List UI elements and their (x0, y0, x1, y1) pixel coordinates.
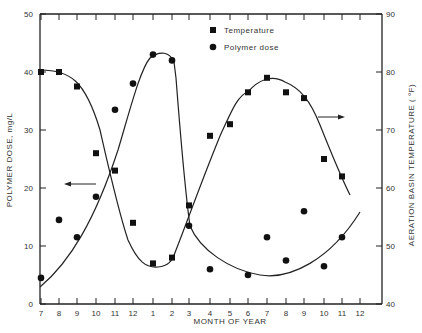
temperature-point (74, 84, 80, 90)
x-tick-label: 1 (151, 309, 156, 318)
temperature-point (93, 150, 99, 156)
y2-tick-label: 70 (386, 126, 395, 135)
y2-tick-label: 60 (386, 184, 395, 193)
right-axis-arrow (318, 115, 345, 120)
temperature-point (339, 173, 345, 179)
polymer-dose-point (207, 266, 214, 273)
dual-axis-scatter-chart: 789101112123456789101112 01020304050 405… (0, 0, 422, 333)
polymer-dose-point (93, 193, 100, 200)
x-tick-label: 11 (338, 309, 347, 318)
temperature-point (321, 156, 327, 162)
temperature-point (186, 202, 192, 208)
polymer-dose-point (38, 275, 45, 282)
polymer-dose-point (186, 222, 193, 229)
x-axis-label: MONTH OF YEAR (193, 317, 266, 326)
polymer-dose-point (150, 51, 157, 58)
x-tick-label: 9 (302, 309, 307, 318)
left-axis-label: POLYMER DOSE, mg/L (5, 113, 14, 208)
x-tick-label: 11 (111, 309, 120, 318)
y-tick-label: 10 (24, 242, 33, 251)
y-tick-label: 40 (24, 68, 33, 77)
x-axis-ticks: 789101112123456789101112 (39, 14, 365, 318)
temperature-point (130, 220, 136, 226)
temperature-point (112, 168, 118, 174)
x-tick-label: 7 (39, 309, 44, 318)
polymer-dose-point (321, 263, 328, 270)
x-tick-label: 2 (170, 309, 175, 318)
polymer-dose-point (264, 234, 271, 241)
x-tick-label: 10 (92, 309, 101, 318)
temperature-point (207, 133, 213, 139)
temperature-point (245, 89, 251, 95)
y2-tick-label: 80 (386, 68, 395, 77)
left-axis-arrow (64, 182, 96, 187)
y-tick-label: 50 (24, 10, 33, 19)
y2-tick-label: 90 (386, 10, 395, 19)
y-tick-label: 0 (29, 300, 34, 309)
polymer-dose-point (339, 234, 346, 241)
temperature-point (301, 95, 307, 101)
x-tick-label: 9 (75, 309, 80, 318)
x-tick-label: 12 (129, 309, 138, 318)
polymer-dose-point (112, 106, 119, 113)
temperature-points (38, 69, 345, 266)
y-tick-label: 30 (24, 126, 33, 135)
x-tick-label: 10 (320, 309, 329, 318)
right-axis-label: AERATION BASIN TEMPERATURE ( °F) (407, 84, 416, 246)
temperature-point (38, 69, 44, 75)
polymer-dose-point (130, 80, 137, 87)
legend-polymer-label: Polymer dose (224, 43, 279, 52)
x-tick-label: 8 (57, 309, 62, 318)
polymer-dose-point (169, 57, 176, 64)
polymer-dose-point (74, 234, 81, 241)
y2-tick-label: 40 (386, 300, 395, 309)
legend-temperature-label: Temperature (224, 26, 274, 35)
temperature-point (227, 121, 233, 127)
temperature-point (150, 260, 156, 266)
x-tick-label: 12 (356, 309, 365, 318)
polymer-dose-point (283, 257, 290, 264)
polymer-fit-curve (40, 53, 360, 287)
temperature-point (283, 89, 289, 95)
x-tick-label: 8 (284, 309, 289, 318)
legend: Temperature Polymer dose (210, 26, 279, 52)
temperature-point (264, 75, 270, 81)
x-tick-label: 3 (187, 309, 192, 318)
right-y-axis-ticks: 405060708090 (376, 10, 395, 309)
polymer-dose-point (56, 217, 63, 224)
y-tick-label: 20 (24, 184, 33, 193)
temperature-point (169, 255, 175, 261)
temperature-point (56, 69, 62, 75)
legend-square-marker (210, 27, 216, 33)
polymer-dose-point (301, 208, 308, 215)
legend-circle-marker (210, 44, 217, 51)
y2-tick-label: 50 (386, 242, 395, 251)
left-y-axis-ticks: 01020304050 (24, 10, 46, 309)
polymer-dose-points (38, 51, 346, 281)
polymer-dose-point (245, 272, 252, 279)
